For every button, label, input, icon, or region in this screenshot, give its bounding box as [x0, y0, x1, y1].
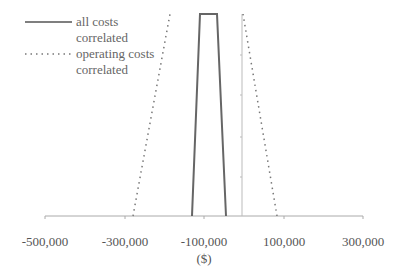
x-axis-label: ($) [196, 251, 211, 267]
series-operating-costs-right [243, 14, 277, 216]
legend-item-operating-costs: operating costs correlated [76, 46, 154, 78]
legend-item-all-costs: all costs correlated [76, 14, 128, 46]
legend-label: correlated [76, 30, 128, 46]
legend-label: all costs [76, 14, 128, 30]
legend: all costs correlated operating costs cor… [0, 0, 200, 80]
legend-label: correlated [76, 62, 154, 78]
x-tick-label: -100,000 [181, 234, 228, 250]
x-tick-label: -500,000 [22, 234, 69, 250]
x-tick-label: 300,000 [342, 234, 384, 250]
legend-label: operating costs [76, 46, 154, 62]
x-tick-label: -300,000 [102, 234, 149, 250]
x-tick-label: 100,000 [263, 234, 305, 250]
